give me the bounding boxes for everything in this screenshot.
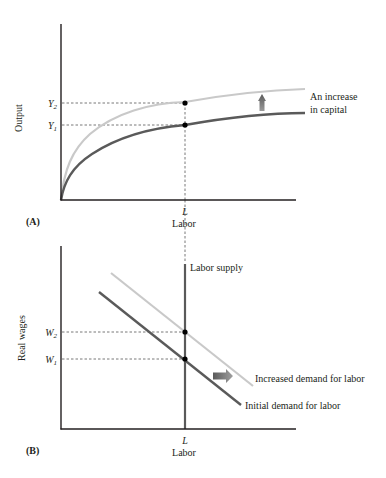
x-axis-label-a: Labor	[172, 218, 197, 229]
y1-tick-label: Y1	[48, 120, 57, 133]
point-y1	[182, 122, 187, 127]
panel-a: Output Y2 Y1 L Labor (A) An increase in …	[13, 24, 358, 262]
x-tick-l-b: L	[181, 435, 188, 446]
x-tick-l-a: L	[181, 206, 188, 217]
annotation-line-2: in capital	[310, 104, 347, 115]
initial-demand-curve	[99, 292, 241, 405]
point-w1	[182, 356, 187, 361]
point-w2	[182, 329, 187, 334]
y-axis-label-a: Output	[13, 104, 24, 132]
panel-b-tag: (B)	[26, 445, 39, 457]
arrow-right-icon	[213, 369, 233, 383]
y-axis-label-b: Real wages	[16, 315, 27, 361]
w1-tick-label: W1	[45, 354, 57, 367]
panel-b: Labor supply Increased demand for labor …	[16, 246, 365, 458]
panel-a-tag: (A)	[26, 216, 40, 228]
arrow-up-icon	[258, 94, 266, 111]
increased-demand-curve	[111, 273, 253, 386]
w2-tick-label: W2	[45, 327, 57, 340]
diagram-canvas: Output Y2 Y1 L Labor (A) An increase in …	[0, 0, 386, 478]
annotation-line-1: An increase	[310, 91, 358, 102]
labor-supply-label: Labor supply	[190, 262, 243, 273]
y2-tick-label: Y2	[48, 98, 58, 111]
increased-capital-curve	[61, 89, 305, 200]
x-axis-label-b: Labor	[172, 447, 197, 458]
point-y2	[182, 100, 187, 105]
initial-demand-label: Initial demand for labor	[245, 400, 341, 411]
increased-demand-label: Increased demand for labor	[255, 373, 365, 384]
